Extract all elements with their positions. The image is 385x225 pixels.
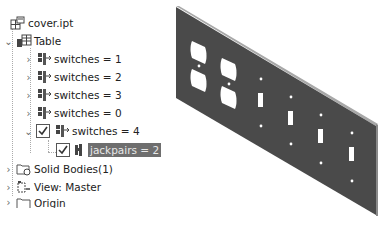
graphics-viewport[interactable] [165, 0, 385, 225]
config-row-icon [36, 52, 52, 66]
checkmark-icon [57, 144, 69, 156]
tree-item-label: switches = 2 [54, 70, 122, 84]
tree-item-config-row[interactable]: › switches = 3 [24, 86, 122, 104]
chevron-down-icon[interactable]: ⌄ [4, 35, 13, 47]
tree-item-config-row[interactable]: › switches = 1 [24, 50, 122, 68]
tree-item-label: Table [34, 34, 61, 48]
tree-item-label: switches = 3 [54, 88, 122, 102]
model-browser: cover.ipt ⌄ Table › switches = 1 › switc… [0, 0, 165, 225]
tree-item-solid-bodies[interactable]: › Solid Bodies(1) [4, 160, 113, 178]
plate-side-edge [376, 124, 378, 216]
tree-item-label: View: Master [34, 180, 101, 194]
chevron-right-icon[interactable]: › [4, 181, 13, 193]
checkmark-icon [37, 125, 49, 137]
tree-item-config-row[interactable]: › switches = 0 [24, 104, 122, 122]
chevron-down-icon[interactable]: ⌄ [24, 125, 33, 137]
tree-item-table[interactable]: ⌄ Table [4, 32, 61, 50]
checkbox-checked[interactable] [56, 143, 70, 157]
config-row-icon [36, 106, 52, 120]
config-row-icon [36, 88, 52, 102]
checkbox-checked[interactable] [36, 124, 50, 138]
chevron-right-icon[interactable]: › [24, 89, 33, 101]
tree-connector [48, 152, 56, 153]
tree-item-label: Origin [34, 196, 66, 208]
part-file-icon [10, 16, 26, 30]
cover-plate-model[interactable] [165, 0, 385, 225]
tree-item-label: Solid Bodies(1) [34, 162, 113, 176]
config-row-icon [36, 70, 52, 84]
tree-item-label: switches = 0 [54, 106, 122, 120]
tree-item-view-rep[interactable]: › View: Master [4, 178, 101, 196]
solid-bodies-folder-icon [16, 162, 32, 176]
chevron-right-icon[interactable]: › [4, 163, 13, 175]
tree-item-origin[interactable]: › Origin [4, 196, 66, 208]
tree-item-label: cover.ipt [28, 16, 73, 30]
tree-item-label-selected: jackpairs = 2 [88, 143, 161, 157]
tree-item-label: switches = 1 [54, 52, 122, 66]
table-icon [16, 34, 32, 48]
chevron-right-icon[interactable]: › [4, 196, 13, 208]
config-row-icon [54, 124, 70, 138]
tree-item-config-row[interactable]: › switches = 2 [24, 68, 122, 86]
chevron-right-icon[interactable]: › [24, 107, 33, 119]
tree-item-config-row-active[interactable]: ⌄ switches = 4 [24, 122, 140, 140]
plate-face [176, 7, 376, 215]
chevron-right-icon[interactable]: › [24, 71, 33, 83]
parameter-icon [74, 143, 86, 157]
tree-item-label: switches = 4 [72, 124, 140, 138]
origin-folder-icon [16, 196, 32, 208]
view-rep-icon [16, 180, 32, 194]
tree-item-root[interactable]: cover.ipt [10, 14, 73, 32]
chevron-right-icon[interactable]: › [24, 53, 33, 65]
tree-item-parameter[interactable]: jackpairs = 2 [56, 141, 161, 159]
tree-connector [48, 140, 49, 152]
